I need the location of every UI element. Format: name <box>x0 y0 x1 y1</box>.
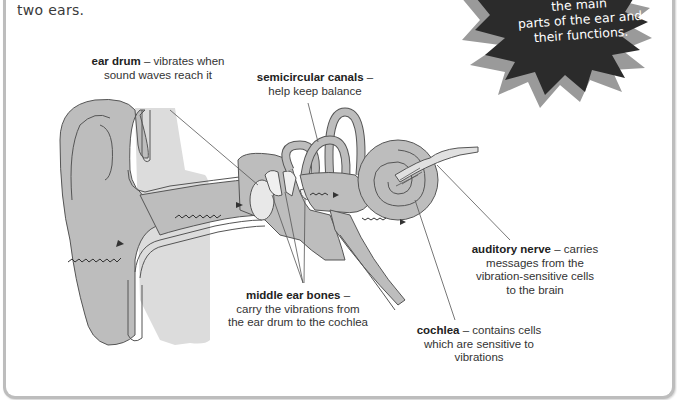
label-desc: the ear drum to the cochlea <box>218 316 378 330</box>
leader-semicircular <box>308 103 318 142</box>
label-cochlea: cochlea – contains cells which are sensi… <box>408 324 550 365</box>
leader-cochlea <box>415 200 455 320</box>
label-desc: help keep balance <box>250 85 380 99</box>
sound-wave-cochlea <box>362 218 386 220</box>
label-term: middle ear bones <box>246 289 341 301</box>
label-term: semicircular canals <box>257 71 364 83</box>
label-desc: – carries <box>551 243 598 255</box>
label-term: auditory nerve <box>472 243 551 255</box>
label-desc: to the brain <box>465 284 605 298</box>
label-desc: messages from the <box>465 257 605 271</box>
label-ear-drum: ear drum – vibrates when sound waves rea… <box>68 55 248 82</box>
label-auditory-nerve: auditory nerve – carries messages from t… <box>465 243 605 297</box>
label-middle-ear-bones: middle ear bones – carry the vibrations … <box>218 289 378 330</box>
label-desc: – contains cells <box>460 324 542 336</box>
label-desc: sound waves reach it <box>68 69 248 83</box>
label-desc: carry the vibrations from <box>218 303 378 317</box>
label-desc: which are sensitive to <box>408 338 550 352</box>
label-semicircular-canals: semicircular canals – help keep balance <box>250 71 380 98</box>
label-desc: – <box>341 289 351 301</box>
label-desc: vibrations <box>408 351 550 365</box>
label-term: cochlea <box>417 324 460 336</box>
label-term: ear drum <box>92 55 141 67</box>
label-desc: vibration-sensitive cells <box>465 270 605 284</box>
label-desc: – <box>364 71 374 83</box>
label-desc: – vibrates when <box>141 55 225 67</box>
leader-nerve <box>437 165 510 240</box>
